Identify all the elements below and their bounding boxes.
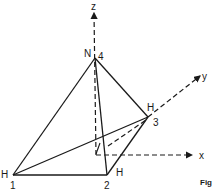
edge-4-3 [95, 58, 148, 117]
figure-caption-fragment: Fig [200, 178, 212, 187]
atom-h3-label: H [147, 102, 154, 113]
atom-n-label: N [84, 48, 91, 59]
atom-h2-label: H [116, 167, 123, 178]
atom-h1-label: H [1, 169, 8, 180]
z-axis-label: z [91, 1, 96, 12]
y-axis-label: y [202, 71, 207, 82]
nh3-pyramid-diagram: z y x N 4 H 3 H 1 H 2 Fig [0, 0, 213, 190]
z-axis [94, 13, 96, 155]
pyramid-edges [13, 58, 148, 175]
y-axis [148, 76, 200, 117]
origin-marker [96, 143, 100, 154]
atom-3-index: 3 [153, 117, 159, 128]
x-axis-label: x [199, 150, 204, 161]
atom-4-index: 4 [98, 51, 104, 62]
atom-1-index: 1 [10, 180, 16, 190]
hidden-edge-2-3-inner [108, 120, 146, 146]
edge-4-2 [95, 58, 107, 175]
atom-2-index: 2 [104, 180, 110, 190]
